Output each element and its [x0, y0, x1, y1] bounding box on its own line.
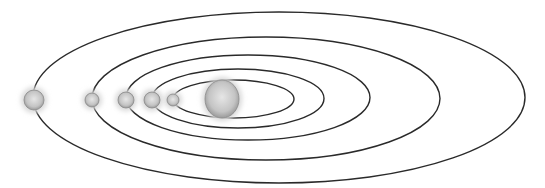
planet-5	[24, 90, 44, 110]
orbit-group	[33, 12, 525, 183]
planet-1	[167, 94, 179, 106]
solar-system-diagram	[0, 0, 545, 188]
planet-2	[144, 92, 160, 108]
orbits-canvas	[0, 0, 545, 188]
planet-group	[21, 77, 242, 121]
planet-4	[85, 93, 99, 107]
planet-3	[118, 92, 134, 108]
sun	[205, 80, 239, 118]
